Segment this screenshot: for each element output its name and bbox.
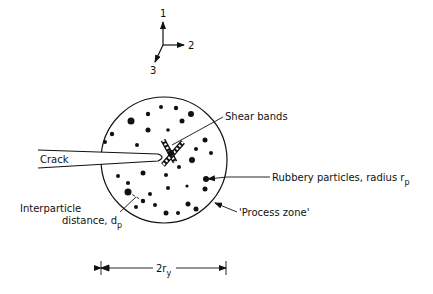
particle-dot (134, 205, 138, 209)
axes-triad (155, 22, 184, 62)
shear-bands (163, 140, 183, 165)
particle-dot (135, 143, 139, 147)
toughening-mechanism-diagram: 1 2 3 Crack Shear bands Rubbery particle… (0, 0, 433, 294)
particle-dot (126, 181, 130, 185)
particle-dot (176, 211, 180, 215)
particle-dot (103, 140, 107, 144)
particle-dot (141, 171, 146, 176)
particle-dot (188, 111, 194, 117)
particle-dot (110, 132, 114, 136)
particle-dot (146, 128, 151, 133)
particle-dot (164, 211, 169, 216)
particle-dot (174, 106, 178, 110)
interparticle-label-line1: Interparticle (20, 203, 81, 214)
crack-label: Crack (40, 154, 69, 165)
particle-dot (164, 173, 168, 177)
interparticle-label-line2: distance, dp (62, 215, 122, 230)
particle-dot (186, 202, 191, 207)
particle-dot (185, 184, 188, 187)
particle-dot (159, 105, 163, 109)
particle-dot (180, 119, 185, 124)
particle-dot (177, 165, 181, 169)
particle-dot (209, 151, 213, 155)
particle-dot (166, 186, 170, 190)
particle-dot (146, 112, 150, 116)
axis-3-label: 3 (150, 65, 156, 76)
shear-bands-label: Shear bands (225, 111, 288, 122)
particle-dot (128, 118, 135, 125)
particle-dot (203, 138, 208, 143)
axis-1-label: 1 (160, 8, 166, 19)
particle-dot (166, 128, 170, 132)
axis-3-arrow (155, 45, 163, 62)
particle-dot (148, 192, 152, 196)
process-zone-label: 'Process zone' (239, 207, 309, 218)
particle-dot (194, 147, 198, 151)
rubbery-particles-label: Rubbery particles, radius rp (272, 172, 409, 187)
interparticle-leader (120, 197, 136, 212)
dimension-label: 2ry (156, 263, 171, 278)
process-zone-leader (215, 203, 237, 212)
particle-dot (189, 157, 195, 163)
axis-2-label: 2 (188, 40, 194, 51)
interparticle-span (128, 192, 143, 201)
particle-dot (153, 203, 157, 207)
particle-dot (116, 174, 120, 178)
particle-dot (203, 187, 208, 192)
particle-dot (194, 207, 199, 212)
